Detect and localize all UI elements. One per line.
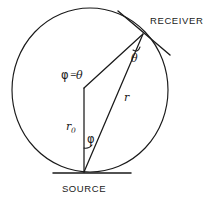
diagram-root: RECEIVER SOURCE φ = θ r 0 r θ φ <box>0 0 206 201</box>
r-label: r <box>124 91 130 104</box>
r0-subscript: 0 <box>71 126 76 135</box>
theta-symbol-relation: θ <box>76 69 83 82</box>
source-label: SOURCE <box>62 183 106 194</box>
phi-equals-theta-label: φ = θ <box>61 68 83 82</box>
geometry-figure: RECEIVER SOURCE φ = θ r 0 r θ φ <box>0 0 206 201</box>
phi-symbol-relation: φ <box>61 68 69 82</box>
receiver-label: RECEIVER <box>150 15 203 26</box>
r0-label: r 0 <box>66 120 76 135</box>
phi-angle-label: φ <box>87 132 95 146</box>
theta-angle-label: θ <box>131 52 138 65</box>
